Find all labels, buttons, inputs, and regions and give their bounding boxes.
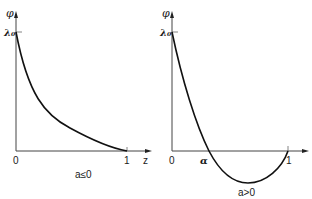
right-y-arrow-icon — [170, 11, 174, 18]
right-lambda-label: λ₀ — [159, 27, 172, 38]
left-panel: φ λ₀ 0 1 z a≤0 — [3, 7, 152, 180]
left-origin-label: 0 — [13, 155, 19, 166]
right-origin-label: 0 — [169, 155, 175, 166]
left-x-arrow-icon — [145, 149, 152, 153]
right-alpha-label: α — [200, 155, 208, 166]
right-one-label: 1 — [286, 155, 292, 166]
left-y-arrow-icon — [14, 11, 18, 18]
left-curve — [16, 32, 127, 151]
right-panel: φ λ₀ 0 α 1 a>0 — [159, 7, 309, 198]
left-z-label: z — [143, 155, 148, 166]
left-y-axis-label: φ — [6, 7, 14, 20]
left-caption: a≤0 — [75, 169, 92, 180]
right-caption: a>0 — [238, 187, 255, 198]
right-y-axis-label: φ — [162, 7, 170, 20]
left-lambda-label: λ₀ — [3, 27, 16, 38]
left-one-label: 1 — [124, 155, 130, 166]
figure: φ λ₀ 0 1 z a≤0 φ λ₀ 0 α 1 a>0 — [0, 0, 312, 199]
right-x-arrow-icon — [302, 149, 309, 153]
right-curve — [172, 32, 288, 183]
